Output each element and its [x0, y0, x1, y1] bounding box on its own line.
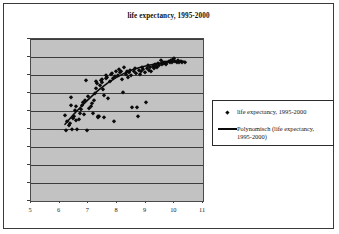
x-tick-label: 7: [86, 206, 89, 213]
line-marker-icon: [217, 125, 237, 133]
scatter-series: [31, 39, 203, 201]
legend-item-scatter[interactable]: life expectancy, 1995-2000: [217, 108, 330, 116]
x-tick-label: 6: [57, 206, 60, 213]
diamond-marker-icon: [217, 108, 237, 116]
chart-frame: life expectancy, 1995-2000 0102030405060…: [3, 3, 334, 229]
chart-title: life expectancy, 1995-2000: [4, 12, 333, 20]
x-tick-label: 10: [170, 206, 176, 213]
plot-area: [30, 38, 204, 202]
legend-item-trendline[interactable]: Polynomisch (life expectancy, 1995-2000): [217, 125, 330, 141]
scatter-point: [68, 121, 72, 125]
legend: life expectancy, 1995-2000 Polynomisch (…: [212, 100, 334, 146]
x-tick-label: 5: [28, 206, 31, 213]
x-tick-label: 9: [143, 206, 146, 213]
x-tick-label: 8: [114, 206, 117, 213]
legend-label-trendline: Polynomisch (life expectancy, 1995-2000): [237, 125, 314, 141]
scatter-point: [63, 113, 67, 117]
x-tick-label: 11: [199, 206, 205, 213]
legend-label-scatter: life expectancy, 1995-2000: [237, 108, 306, 116]
